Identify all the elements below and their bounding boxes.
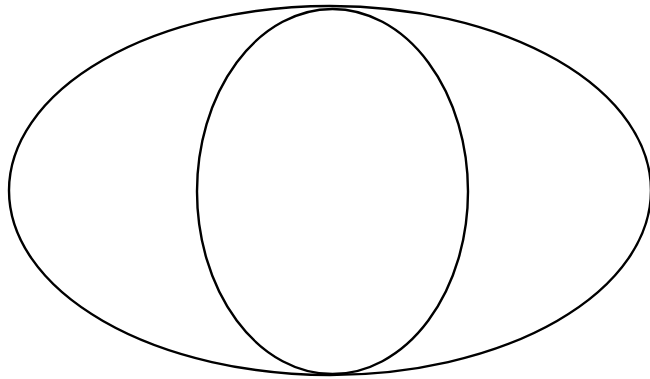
venn-diagram-canvas: [0, 0, 650, 379]
venn-diagram-svg: [0, 0, 650, 379]
